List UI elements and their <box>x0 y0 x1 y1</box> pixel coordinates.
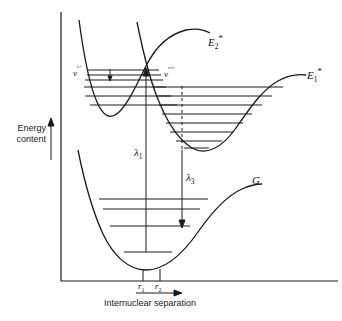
y-axis-arrow-icon <box>48 118 54 160</box>
transition-label-lambda3: λ3 <box>186 172 195 186</box>
v-triple-prime-primes: ′′′ <box>168 66 175 75</box>
vibrational-levels-ground <box>99 199 208 252</box>
curve-label-e1-superscript: * <box>317 66 321 76</box>
transition-arrow-lambda3 <box>179 86 185 228</box>
tick-label-r1: r1 <box>138 282 145 293</box>
v-double-prime-primes: ′′ <box>77 65 81 74</box>
lambda3-subscript: 3 <box>191 177 195 186</box>
curve-label-g-letter: G <box>252 174 260 186</box>
curve-label-e1-letter: E <box>307 69 314 81</box>
curve-label-e2-superscript: * <box>218 33 222 43</box>
curve-e2-star <box>79 20 210 116</box>
lambda1-subscript: 1 <box>139 152 143 161</box>
x-axis-ticks <box>143 269 160 281</box>
vibrational-levels-e1 <box>153 87 283 148</box>
r1-subscript: 1 <box>142 287 145 293</box>
y-axis-title-line2: content <box>8 135 46 144</box>
transition-label-lambda1: λ1 <box>134 147 143 161</box>
potential-energy-diagram-svg <box>0 0 342 321</box>
vibrational-label-v-triple-prime: v′′′ <box>164 67 175 79</box>
curve-label-e2-subscript: 2 <box>215 42 219 51</box>
y-axis-title: Energy content <box>8 124 46 144</box>
curve-label-e1-star: E1* <box>307 67 322 83</box>
axis-lines <box>61 12 338 281</box>
curve-label-e2-letter: E <box>208 36 215 48</box>
curve-label-e2-star: E2* <box>208 34 223 50</box>
vibrational-label-v-double-prime: v′′ <box>73 66 81 78</box>
figure-canvas: E2* E1* G v′′ v′′′ λ1 λ3 r1 r2 Energy co… <box>0 0 342 321</box>
r2-subscript: 2 <box>159 287 162 293</box>
x-axis-title: Internuclear separation <box>104 299 196 308</box>
curve-label-ground-state: G <box>252 175 260 186</box>
y-axis-title-line1: Energy <box>8 124 46 133</box>
tick-label-r2: r2 <box>155 282 162 293</box>
curve-label-e1-subscript: 1 <box>314 75 318 84</box>
